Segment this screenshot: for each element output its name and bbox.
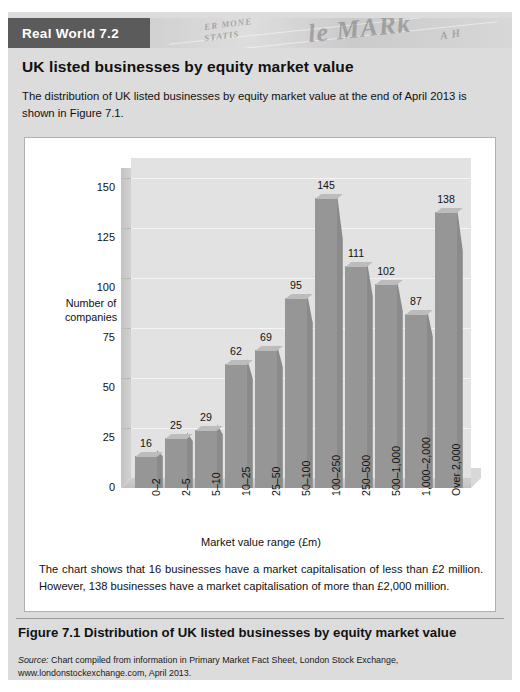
bar-top-face (375, 280, 403, 285)
bar-top-face (255, 346, 283, 351)
bar-value-label: 87 (397, 295, 435, 307)
section-heading: UK listed businesses by equity market va… (22, 58, 492, 76)
bar-value-label: 102 (367, 265, 405, 277)
x-tick-label: 250–500 (360, 455, 372, 496)
x-axis-title: Market value range (£m) (25, 536, 497, 548)
commentary-line-1: The chart shows that 16 businesses have … (39, 563, 483, 575)
bar-column (315, 198, 337, 488)
bar-value-label: 62 (217, 345, 255, 357)
x-tick-label: 500–1,000 (390, 446, 402, 496)
real-world-tag: Real World 7.2 (8, 18, 150, 48)
x-tick-label: 100–250 (330, 455, 342, 496)
chart-commentary: The chart shows that 16 businesses have … (39, 561, 483, 595)
bar-column (285, 298, 307, 488)
bar-series: 160–2252–5295–106210–256925–509550–10014… (25, 138, 497, 558)
bar-top-face (405, 310, 433, 315)
bar-value-label: 69 (247, 331, 285, 343)
figure-caption: Figure 7.1 Distribution of UK listed bus… (18, 625, 498, 640)
bar-value-label: 145 (307, 179, 345, 191)
figure-panel: 0255075100125150 Number of companies 160… (24, 137, 496, 612)
bar-side-face (337, 192, 343, 488)
x-tick-label: Over 2,000 (450, 444, 462, 496)
x-tick-label: 10–25 (240, 467, 252, 496)
intro-paragraph: The distribution of UK listed businesses… (22, 88, 498, 121)
x-tick-label: 2–5 (180, 478, 192, 496)
x-tick-label: 50–100 (300, 461, 312, 496)
source-label: Source: (18, 655, 49, 665)
bar-front-face (315, 198, 337, 488)
newspaper-text-fragment: A H (439, 26, 462, 41)
bar-value-label: 138 (427, 193, 465, 205)
bar-side-face (307, 292, 313, 488)
bar-front-face (285, 298, 307, 488)
bar-top-face (285, 294, 313, 299)
x-tick-label: 0–2 (150, 478, 162, 496)
commentary-line-2: However, 138 businesses have a market ca… (39, 580, 449, 592)
bar-value-label: 29 (187, 411, 225, 423)
x-tick-label: 5–10 (210, 472, 222, 496)
x-tick-label: 25–50 (270, 467, 282, 496)
page-root: ER MONE STATIS le MARk A H Real World 7.… (0, 0, 520, 692)
bar-value-label: 95 (277, 279, 315, 291)
source-body: Chart compiled from information in Prima… (18, 655, 398, 678)
bar-value-label: 16 (127, 437, 165, 449)
bar-top-face (225, 360, 253, 365)
newspaper-text-fragment: le MARk (307, 18, 413, 48)
bar-chart: 0255075100125150 Number of companies 160… (25, 138, 497, 558)
bar-value-label: 111 (337, 247, 375, 259)
caption-divider (16, 618, 504, 619)
bar-top-face (315, 194, 343, 199)
x-tick-label: 1,000–2,000 (420, 437, 432, 496)
bar-top-face (435, 208, 463, 213)
source-note: Source: Chart compiled from information … (18, 654, 500, 679)
